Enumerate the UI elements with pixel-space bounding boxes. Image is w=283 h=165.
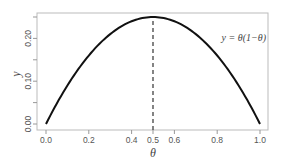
x-tick-label: 0.4 bbox=[126, 135, 138, 145]
x-axis: 0.00.20.40.50.60.81.0 bbox=[40, 130, 266, 145]
x-tick-label: 0.2 bbox=[83, 135, 95, 145]
x-tick-label: 1.0 bbox=[254, 135, 266, 145]
y-tick-label: 0.10 bbox=[23, 73, 33, 90]
curve-annotation: y = θ(1−θ) bbox=[221, 32, 267, 44]
x-tick-label: 0.5 bbox=[147, 135, 159, 145]
y-axis-label: y bbox=[9, 71, 23, 78]
y-axis: 0.000.100.20 bbox=[23, 17, 37, 132]
y-tick-label: 0.20 bbox=[23, 30, 33, 47]
chart: 0.000.100.20 0.00.20.40.50.60.81.0 y = θ… bbox=[0, 0, 283, 165]
x-axis-label: θ bbox=[150, 146, 156, 160]
y-tick-label: 0.00 bbox=[23, 115, 33, 132]
x-tick-label: 0.8 bbox=[211, 135, 223, 145]
x-tick-label: 0.0 bbox=[40, 135, 52, 145]
x-tick-label: 0.6 bbox=[168, 135, 180, 145]
